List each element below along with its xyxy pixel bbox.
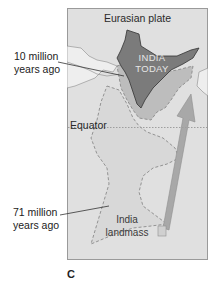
seventy-one-million-years-ago-label: 71 million years ago xyxy=(13,206,59,231)
eurasian-plate-label: Eurasian plate xyxy=(67,12,208,24)
seventy-one-my-line1: 71 million xyxy=(13,206,59,219)
india-landmass-label-line2: landmass xyxy=(97,227,157,240)
india-landmass-label: India landmass xyxy=(97,214,157,239)
panel-label: C xyxy=(67,268,75,280)
ten-my-line2: years ago xyxy=(14,63,60,76)
map-frame: Eurasian plate INDIA TODAY Equator India… xyxy=(67,8,208,260)
ten-million-years-ago-label: 10 million years ago xyxy=(14,50,60,75)
india-today-label-line2: TODAY xyxy=(131,63,173,74)
seventy-one-my-line2: years ago xyxy=(13,219,59,232)
india-today-label: INDIA TODAY xyxy=(131,52,173,74)
india-landmass-label-line1: India xyxy=(97,214,157,227)
equator-label: Equator xyxy=(70,119,107,131)
india-today-label-line1: INDIA xyxy=(131,52,173,63)
ten-my-line1: 10 million xyxy=(14,50,60,63)
